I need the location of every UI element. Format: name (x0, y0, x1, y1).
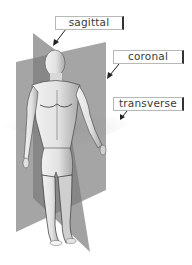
label-transverse: transverse (113, 97, 184, 111)
coronal-arrow (107, 64, 119, 79)
sagittal-arrow (53, 29, 66, 46)
anatomical-planes-diagram: sagittal coronal transverse (0, 0, 192, 265)
diagram-canvas (0, 0, 192, 265)
label-sagittal: sagittal (55, 16, 124, 30)
transverse-arrow (120, 111, 127, 120)
label-coronal: coronal (113, 50, 184, 64)
